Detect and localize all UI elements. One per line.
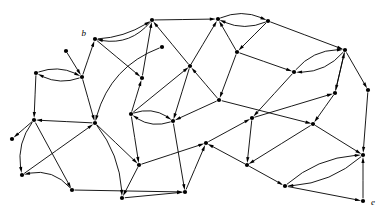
graph-node: [204, 141, 208, 145]
graph-node: [34, 71, 38, 75]
edge-arrowhead: [286, 68, 292, 71]
graph-node: [183, 190, 187, 194]
graph-node: [93, 121, 97, 125]
graph-edge: [191, 25, 214, 63]
label-layer: be: [82, 28, 376, 207]
edge-arrowhead: [182, 184, 185, 190]
graph-node: [245, 163, 249, 167]
graph-edge: [225, 22, 266, 26]
edge-arrowhead: [249, 159, 255, 164]
graph-edge: [186, 150, 203, 189]
graph-node: [20, 173, 24, 177]
graph-node: [216, 17, 220, 21]
edge-arrowhead: [91, 41, 94, 47]
graph-node: [64, 49, 68, 53]
edge-arrowhead: [33, 112, 36, 118]
graph-edge: [97, 41, 136, 73]
graph-edge: [157, 26, 188, 64]
graph-node: [129, 112, 133, 116]
graph-node: [250, 116, 254, 120]
graph-edge: [317, 95, 333, 117]
graph-node: [80, 75, 84, 79]
graph-edge: [24, 127, 88, 173]
graph-edge: [288, 187, 356, 200]
graph-edge: [83, 46, 93, 74]
edge-layer: [14, 13, 368, 201]
edge-arrowhead: [95, 115, 98, 121]
graph-edge: [18, 122, 32, 134]
graph-edge: [97, 125, 122, 190]
edge-arrowhead: [246, 157, 249, 163]
graph-edge: [364, 93, 368, 148]
edge-arrowhead: [277, 181, 283, 185]
graph-edge: [316, 126, 357, 152]
graph-edge: [296, 50, 337, 70]
graph-edge: [180, 101, 216, 118]
graph-node: [188, 64, 192, 68]
edge-arrowhead: [220, 92, 224, 98]
graph-edge: [222, 26, 236, 50]
graph-node: [120, 196, 124, 200]
graph-node: [343, 48, 347, 52]
graph-edge: [20, 122, 32, 167]
graph-edge: [98, 24, 146, 39]
graph-edge: [155, 19, 211, 20]
graph-edge: [39, 69, 76, 73]
graph-node: [32, 118, 36, 122]
graph-edge: [83, 80, 93, 116]
directed-graph-figure: be: [0, 0, 388, 218]
graph-node: [235, 50, 239, 54]
edge-arrowhead: [36, 119, 42, 122]
graph-edge: [125, 193, 177, 198]
graph-node: [292, 70, 296, 74]
edge-arrowhead: [136, 157, 139, 163]
edge-arrowhead: [175, 116, 181, 120]
edge-arrowhead: [210, 18, 216, 21]
graph-edge: [209, 122, 246, 142]
graph-edge: [240, 53, 287, 70]
graph-edge: [222, 55, 236, 93]
graph-edge: [195, 72, 217, 98]
node-label-e: e: [371, 197, 375, 207]
graph-edge: [142, 145, 199, 164]
edge-arrowhead: [363, 82, 367, 88]
graph-edge: [212, 146, 244, 163]
graph-edge: [347, 53, 365, 84]
graph-node: [311, 122, 315, 126]
graph-edge: [43, 77, 80, 81]
graph-node: [70, 188, 74, 192]
edge-arrowhead: [305, 121, 311, 124]
graph-edge: [97, 125, 133, 160]
graph-node: [10, 137, 14, 141]
graph-node: [283, 184, 287, 188]
graph-node: [217, 98, 221, 102]
graph-node: [361, 153, 365, 157]
edge-arrowhead: [355, 154, 361, 157]
edge-arrowhead: [198, 144, 204, 147]
graph-edge: [42, 120, 92, 122]
graph-edge: [257, 74, 292, 112]
graph-node: [93, 37, 97, 41]
edge-arrowhead: [201, 145, 205, 151]
edge-arrowhead: [212, 21, 216, 27]
edge-arrowhead: [362, 147, 365, 153]
graph-edge: [271, 22, 338, 47]
edge-arrowhead: [208, 144, 214, 148]
edge-arrowhead: [91, 115, 94, 121]
edge-arrowhead: [296, 70, 302, 73]
graph-edge: [97, 48, 159, 116]
graph-node: [140, 76, 144, 80]
edge-arrowhead: [38, 74, 44, 78]
graph-edge: [34, 76, 36, 113]
graph-node: [361, 199, 365, 203]
graph-edge: [222, 101, 306, 122]
graph-node: [150, 18, 154, 22]
edge-arrowhead: [244, 119, 250, 123]
edge-arrowhead: [327, 94, 333, 97]
graph-edge: [67, 53, 78, 70]
graph-edge: [102, 22, 150, 41]
graph-edge: [250, 166, 279, 182]
edge-arrowhead: [260, 16, 266, 20]
graph-edge: [253, 126, 310, 162]
graph-edge: [131, 117, 137, 158]
